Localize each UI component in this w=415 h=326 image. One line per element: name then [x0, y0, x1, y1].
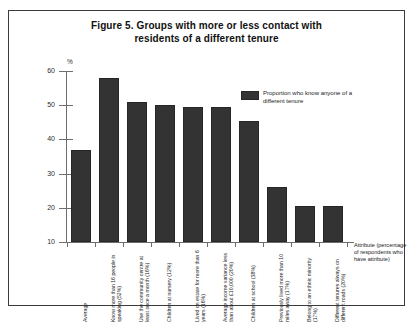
- chart-title: Figure 5. Groups with more or less conta…: [9, 19, 404, 45]
- x-axis-category-label: Children at nursery (12%): [167, 248, 173, 322]
- bar[interactable]: [295, 206, 316, 242]
- x-axis-category-labels: AverageKnow more than 16 people in speak…: [67, 248, 348, 326]
- x-axis-tick: [123, 242, 124, 247]
- x-axis-category-label: Use the community centre at least once a…: [139, 248, 151, 322]
- attribute-note: Attribute (percentage of respondents who…: [354, 242, 410, 263]
- x-axis-tick: [207, 242, 208, 247]
- x-axis-category-label: Average: [83, 248, 89, 322]
- chart-title-line-2: residents of a different tenure: [9, 32, 404, 45]
- y-axis-tick-label: 60: [33, 67, 55, 74]
- x-axis-category-label: Know more than 16 people in speaking (52…: [111, 248, 123, 322]
- y-axis-tick-label: 50: [33, 101, 55, 108]
- bar[interactable]: [99, 78, 120, 242]
- y-axis-tick-label: 40: [33, 135, 55, 142]
- x-axis-category-label: Average income variance less than about …: [223, 248, 235, 322]
- y-axis-tick: [59, 242, 73, 243]
- figure-frame: Figure 5. Groups with more or less conta…: [8, 10, 405, 306]
- x-axis-tick: [179, 242, 180, 247]
- x-axis-category-label: Children at school (38%): [251, 248, 257, 322]
- x-axis-category-label: Lived on estate for more than 6 years (1…: [195, 248, 207, 322]
- legend: Proportion who know anyone of a differen…: [241, 90, 358, 105]
- x-axis-tick: [151, 242, 152, 247]
- bar[interactable]: [239, 121, 260, 242]
- bar[interactable]: [183, 107, 204, 242]
- x-axis-tick: [319, 242, 320, 247]
- y-axis-tick-label: 30: [33, 170, 55, 177]
- bar[interactable]: [127, 102, 148, 242]
- y-axis-tick-label: 10: [33, 238, 55, 245]
- bar[interactable]: [155, 105, 176, 242]
- x-axis-tick: [235, 242, 236, 247]
- bar[interactable]: [71, 150, 92, 242]
- bar[interactable]: [323, 206, 344, 242]
- x-axis-tick: [67, 242, 68, 247]
- x-axis-tick: [95, 242, 96, 247]
- x-axis-category-label: Different tenures always on different ro…: [335, 248, 347, 322]
- y-axis-unit-label: %: [67, 58, 73, 65]
- x-axis-category-label: Belong to an ethnic minority (17%): [307, 248, 319, 322]
- x-axis-category-label: Previously lived more than 10 miles away…: [279, 248, 291, 322]
- bar[interactable]: [211, 107, 232, 242]
- x-axis-tick: [291, 242, 292, 247]
- legend-label: Proportion who know anyone of a differen…: [263, 90, 358, 105]
- chart-title-line-1: Figure 5. Groups with more or less conta…: [91, 20, 322, 31]
- legend-swatch-icon: [241, 91, 259, 100]
- y-axis-tick-label: 20: [33, 204, 55, 211]
- x-axis-tick: [263, 242, 264, 247]
- bar[interactable]: [267, 187, 288, 242]
